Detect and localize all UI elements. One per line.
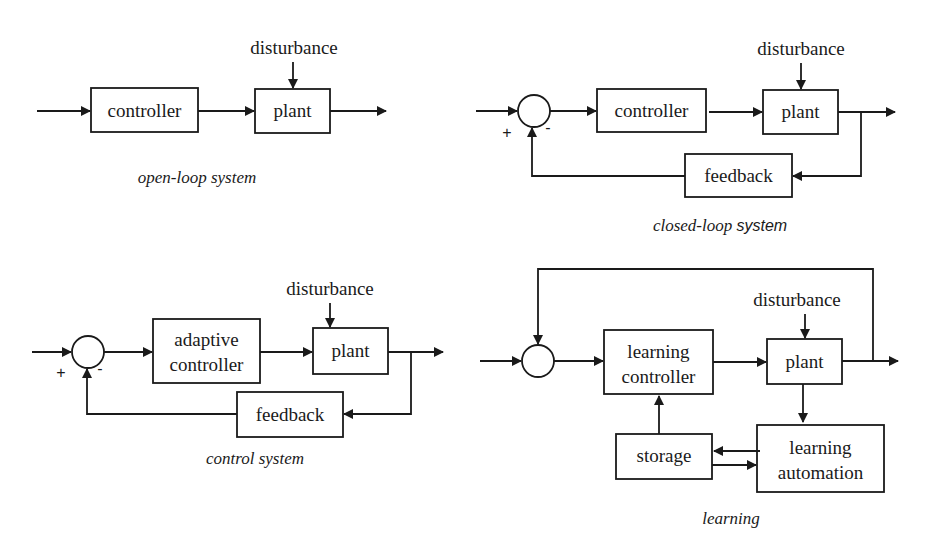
learning-automation-label-line1: learning [789, 437, 852, 458]
plant-label: plant [274, 100, 313, 121]
learning-controller-label-line1: learning [627, 341, 690, 362]
disturbance-label: disturbance [286, 278, 374, 299]
disturbance-label: disturbance [753, 289, 841, 310]
controller-label: controller [108, 100, 183, 121]
adaptive-controller-label-line2: controller [170, 354, 245, 375]
open-loop-caption: open-loop system [138, 168, 257, 187]
plant-label: plant [332, 340, 371, 361]
disturbance-label: disturbance [250, 37, 338, 58]
plant-label: plant [786, 351, 825, 372]
feedback-label: feedback [704, 165, 773, 186]
controller-label: controller [615, 100, 690, 121]
storage-label: storage [637, 445, 692, 466]
adaptive-control-diagram: + - adaptive controller plant disturbanc… [32, 278, 443, 468]
disturbance-label: disturbance [757, 38, 845, 59]
control-diagrams-canvas: controller plant disturbance open-loop s… [0, 0, 926, 546]
feedback-return-line [532, 128, 685, 176]
learning-caption: learning [702, 509, 760, 528]
learning-diagram: learning controller plant disturbance le… [480, 269, 898, 528]
plus-sign: + [56, 364, 65, 381]
open-loop-diagram: controller plant disturbance open-loop s… [37, 37, 386, 187]
summing-junction [522, 345, 554, 377]
plant-label: plant [782, 101, 821, 122]
minus-sign: - [97, 360, 102, 377]
closed-loop-diagram: + - controller plant disturbance feedbac… [476, 38, 895, 235]
control-system-caption: control system [206, 449, 304, 468]
closed-loop-caption: closed-loop system [653, 216, 787, 235]
feedback-label: feedback [256, 404, 325, 425]
adaptive-controller-label-line1: adaptive [174, 329, 238, 350]
plus-sign: + [502, 124, 511, 141]
learning-controller-label-line2: controller [622, 366, 697, 387]
minus-sign: - [545, 119, 550, 136]
learning-automation-label-line2: automation [778, 462, 864, 483]
